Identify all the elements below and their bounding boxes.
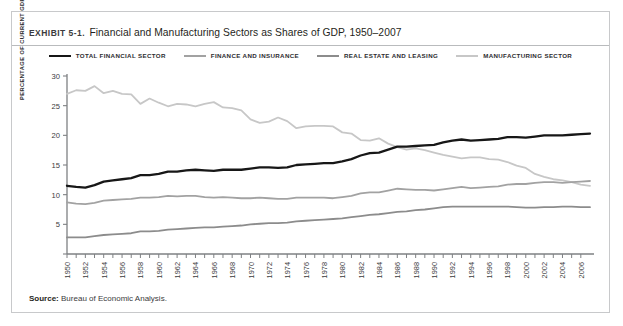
y-tick-label: 10 xyxy=(52,191,60,200)
x-tick-label: 1952 xyxy=(81,262,90,278)
x-tick-label: 1964 xyxy=(191,262,200,278)
source-text: Bureau of Economic Analysis. xyxy=(61,294,167,303)
exhibit-header: Exhibit 5-1. Financial and Manufacturing… xyxy=(12,12,609,46)
x-tick-label: 1958 xyxy=(136,262,145,278)
y-tick-label: 25 xyxy=(52,102,60,111)
x-tick-label: 2006 xyxy=(577,262,586,278)
x-tick-label: 1988 xyxy=(412,262,421,278)
x-tick-label: 1990 xyxy=(430,262,439,278)
legend-label: Real Estate and Leasing xyxy=(344,52,438,59)
legend-item-manufacturing-sector[interactable]: Manufacturing Sector xyxy=(456,52,572,59)
x-tick-label: 1974 xyxy=(283,262,292,278)
y-tick-label: 30 xyxy=(52,72,60,81)
x-tick-label: 1994 xyxy=(467,262,476,278)
x-tick-label: 1978 xyxy=(320,262,329,278)
legend-item-real-estate-and-leasing[interactable]: Real Estate and Leasing xyxy=(317,52,438,59)
x-tick-label: 1968 xyxy=(228,262,237,278)
y-tick-label: 5 xyxy=(56,220,60,229)
legend-label: Total Financial Sector xyxy=(76,52,166,59)
chart-plot-area: 5101520253019501952195419561958196019621… xyxy=(12,64,611,286)
x-tick-label: 1992 xyxy=(448,262,457,278)
series-line-real-estate-and-leasing xyxy=(67,207,590,238)
legend-item-total-financial-sector[interactable]: Total Financial Sector xyxy=(49,52,166,59)
source-note: Source: Bureau of Economic Analysis. xyxy=(29,294,167,303)
legend-swatch-icon xyxy=(456,55,478,57)
x-tick-label: 1950 xyxy=(63,262,72,278)
series-line-finance-and-insurance xyxy=(67,181,590,204)
y-tick-label: 20 xyxy=(52,131,60,140)
x-tick-label: 1956 xyxy=(118,262,127,278)
exhibit-title: Financial and Manufacturing Sectors as S… xyxy=(89,27,401,38)
series-line-manufacturing-sector xyxy=(67,86,590,186)
legend-label: Manufacturing Sector xyxy=(483,52,572,59)
x-tick-label: 2002 xyxy=(540,262,549,278)
series-line-total-financial-sector xyxy=(67,134,590,188)
x-tick-label: 1962 xyxy=(173,262,182,278)
x-tick-label: 1980 xyxy=(338,262,347,278)
x-tick-label: 2000 xyxy=(522,262,531,278)
line-chart: 5101520253019501952195419561958196019621… xyxy=(12,64,611,286)
x-tick-label: 1986 xyxy=(393,262,402,278)
x-tick-label: 1984 xyxy=(375,262,384,278)
legend-swatch-icon xyxy=(49,55,71,57)
x-tick-label: 1954 xyxy=(100,262,109,278)
x-tick-label: 1972 xyxy=(265,262,274,278)
chart-legend: Total Financial SectorFinance and Insura… xyxy=(12,52,609,59)
y-tick-label: 15 xyxy=(52,161,60,170)
legend-item-finance-and-insurance[interactable]: Finance and Insurance xyxy=(184,52,299,59)
x-tick-label: 1966 xyxy=(210,262,219,278)
legend-swatch-icon xyxy=(317,55,339,57)
source-label: Source: xyxy=(29,294,59,303)
legend-swatch-icon xyxy=(184,55,206,57)
x-tick-label: 1960 xyxy=(155,262,164,278)
x-tick-label: 1998 xyxy=(503,262,512,278)
exhibit-card: Exhibit 5-1. Financial and Manufacturing… xyxy=(11,11,610,313)
x-tick-label: 1996 xyxy=(485,262,494,278)
exhibit-number: Exhibit 5-1. xyxy=(29,28,85,38)
legend-label: Finance and Insurance xyxy=(211,52,299,59)
x-tick-label: 1970 xyxy=(247,262,256,278)
x-tick-label: 2004 xyxy=(558,262,567,278)
x-tick-label: 1982 xyxy=(357,262,366,278)
x-tick-label: 1976 xyxy=(302,262,311,278)
